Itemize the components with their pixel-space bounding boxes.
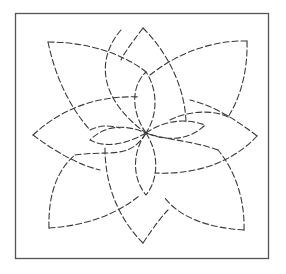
quilting-pattern-diagram <box>0 0 286 274</box>
square-frame <box>16 14 269 259</box>
large-petal-bottom-left <box>49 155 140 228</box>
large-petal-bottom-right <box>165 150 244 230</box>
pinwheel-arcs <box>33 28 257 243</box>
large-petal-top-left <box>48 42 146 130</box>
large-petal-top-right <box>150 41 247 117</box>
